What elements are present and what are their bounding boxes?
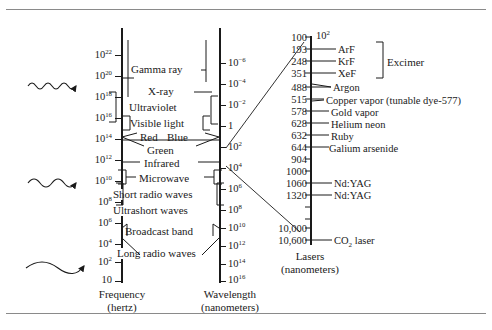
frame-rule-top [6,9,486,10]
bracket-excimer [376,42,383,78]
frequency-tick [115,244,122,245]
frequency-caption-line2: (hertz) [82,301,162,314]
bracket-visible-light-right [203,116,210,130]
wavelength-caption-line2: (nanometers) [180,301,280,314]
tick-exponent: 16 [105,111,112,118]
laser-name-xef: XeF [338,69,356,80]
frequency-tick-label: 1022 [74,50,112,61]
wavelength-caption-line1: Wavelength [180,288,280,301]
wavelength-tick [219,281,226,282]
tick-base: 10 [316,30,327,41]
laser-name-copper-vapor: Copper vapor (tunable dye-577) [326,96,461,107]
tick-base: 10 [228,258,239,269]
tick-exponent: −4 [239,77,246,84]
band-label-microwave: Microwave [138,173,190,184]
tick-base: 10 [98,238,109,249]
laser-value: 10,000 [248,224,307,235]
laser-value: 10,600 [248,236,307,247]
frequency-tick [115,281,122,282]
wavelength-tick-label: 1016 [228,275,268,286]
wavelength-tick-label: 108 [228,205,268,216]
tick-exponent: 22 [105,48,112,55]
frequency-tick [115,181,122,182]
tick-base: 10 [98,256,109,267]
frequency-tick [115,76,122,77]
laser-leader-argon-upper [312,84,331,87]
tick-exponent: 4 [239,161,242,168]
laser-value: 100 [255,33,307,44]
tick-exponent: 2 [239,140,242,147]
band-label-x-ray: X-ray [147,86,175,97]
tick-base: 10 [95,175,106,186]
laser-name-nd-yag-1320: Nd:YAG [334,191,371,202]
tick-exponent: 10 [239,221,246,228]
frequency-tick [115,262,122,263]
tick-exponent: 4 [109,237,112,244]
laser-value: 632 [255,131,307,142]
laser-name-galium-arsenide: Galium arsenide [329,144,398,155]
frequency-tick-label: 106 [74,218,112,229]
tick-exponent: 14 [105,132,112,139]
wavelength-tick [219,63,226,64]
laser-caption-line2: (nanometers) [262,263,358,276]
band-label-visible-light: Visible light [129,118,185,129]
band-label-long-radio-waves: Long radio waves [116,248,197,259]
tick-exponent: −2 [239,98,246,105]
laser-group-label-excimer: Excimer [387,57,424,68]
laser-caption-line1: Lasers [262,250,358,263]
wavelength-tick [219,105,226,106]
tick-base: 10 [95,154,106,165]
frequency-tick-label: 104 [74,239,112,250]
tick-base: 10 [95,133,106,144]
tick-base: 10 [98,196,109,207]
tick-exponent: 10 [105,174,112,181]
frequency-tick-label: 1010 [74,176,112,187]
tick-base: 10 [228,204,239,215]
laser-value: 904 [255,155,307,166]
laser-name-argon: Argon [333,83,360,94]
frequency-tick-label: 10 [74,275,112,286]
tick-base: 1 [228,120,233,131]
laser-name-krf: KrF [338,57,355,68]
tick-base: 10 [228,274,239,285]
tick-exponent: 20 [105,69,112,76]
tick-exponent: 18 [105,90,112,97]
co2-subscript: 2 [349,241,353,249]
tick-exponent: 16 [239,273,246,280]
band-label-blue: Blue [166,132,189,143]
tick-base: 10 [228,57,239,68]
frequency-caption-line1: Frequency [82,288,162,301]
band-label-green: Green [146,145,175,156]
laser-leader-copper-vapor-2 [312,100,324,101]
tick-base: 10 [95,70,106,81]
tick-exponent: 12 [239,239,246,246]
laser-axis-top-tick-label: 102 [316,31,346,42]
co2-suffix: laser [355,235,375,246]
laser-name-nd-yag-1060: Nd:YAG [334,179,371,190]
laser-value: 578 [255,107,307,118]
laser-name-ruby: Ruby [331,132,354,143]
frequency-tick-label: 1016 [74,113,112,124]
laser-name-gold-vapor: Gold vapor [331,108,379,119]
laser-value: 628 [255,119,307,130]
laser-name-arf: ArF [338,45,355,56]
leader-blue-right [205,133,219,137]
band-label-ultrashort-waves: Ultrashort waves [112,205,189,216]
band-label-broadcast-band: Broadcast band [124,226,194,237]
frequency-tick [115,202,122,203]
band-label-short-radio-waves: Short radio waves [112,189,193,200]
frame-rule-bottom [6,313,486,314]
band-label-gamma-ray: Gamma ray [130,64,184,75]
laser-value: 351 [255,69,307,80]
tick-exponent: 14 [239,257,246,264]
laser-value: 515 [255,95,307,106]
high-frequency-wave-path [28,83,76,89]
wavelength-tick [219,264,226,265]
laser-name-co2-laser: CO2 laser [334,236,375,247]
wavelength-tick [219,210,226,211]
laser-value: 644 [255,143,307,154]
frequency-tick [115,55,122,56]
tick-base: 10 [98,217,109,228]
laser-value: 488 [255,83,307,94]
wavelength-axis-line [219,28,221,283]
